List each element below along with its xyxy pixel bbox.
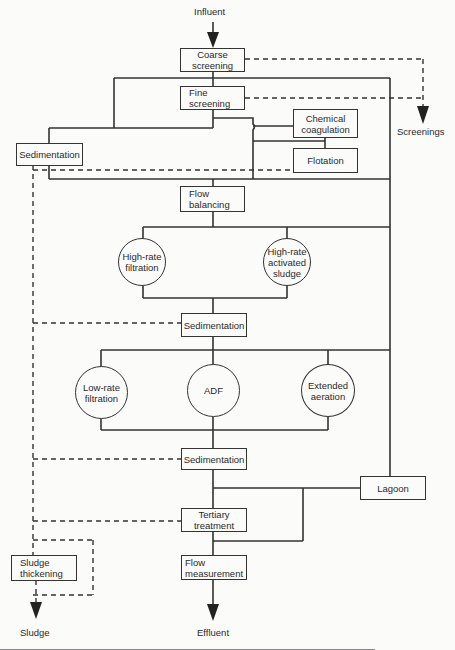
sedimentation-final-box: Sedimentation [181, 448, 247, 470]
coarse-screening-box: Coarse screening [180, 48, 245, 72]
tertiary-treatment-box: Tertiary treatment [181, 508, 247, 532]
extended-aeration-node: Extended aeration [301, 364, 355, 417]
sludge-thickening-box: Sludge thickening [11, 555, 77, 581]
influent-label: Influent [194, 6, 225, 17]
screenings-arrow-icon [417, 106, 429, 124]
flow-balancing-box: Flow balancing [180, 186, 245, 212]
high-rate-activated-sludge-node: High-rate activated sludge [263, 238, 311, 286]
high-rate-filtration-node: High-rate filtration [118, 238, 166, 286]
sedimentation-secondary-box: Sedimentation [181, 313, 247, 337]
screenings-label: Screenings [397, 126, 445, 137]
flow-measurement-box: Flow measurement [181, 555, 247, 580]
sludge-arrow-icon [30, 602, 42, 619]
sludge-label: Sludge [20, 627, 50, 638]
low-rate-filtration-node: Low-rate filtration [75, 366, 128, 419]
effluent-label: Effluent [197, 627, 229, 638]
lagoon-box: Lagoon [360, 476, 426, 500]
chemical-coagulation-box: Chemical coagulation [293, 109, 358, 138]
fine-screening-box: Fine screening [180, 86, 245, 110]
adf-node: ADF [187, 364, 240, 417]
flotation-box: Flotation [293, 148, 358, 173]
sedimentation-primary-box: Sedimentation [16, 143, 83, 166]
